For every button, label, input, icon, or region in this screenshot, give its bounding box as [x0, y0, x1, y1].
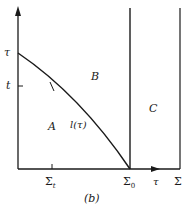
- y-axis-arrow-icon: [15, 6, 21, 16]
- sigma-0-base: Σ: [123, 175, 131, 188]
- curve-marker: [50, 82, 54, 91]
- x-label-sigma: Σ: [174, 176, 182, 187]
- region-b-label: B: [91, 71, 99, 82]
- sigma-t-base: Σ: [45, 175, 53, 188]
- curve-label: l(τ): [70, 119, 87, 130]
- region-a-label: A: [48, 121, 56, 132]
- y-label-tau: τ: [4, 47, 10, 58]
- curve-l-tau: [18, 53, 130, 169]
- y-label-t: t: [6, 80, 10, 91]
- x-axis-label-tau: τ: [153, 176, 159, 187]
- figure-caption: (b): [84, 193, 100, 204]
- sigma-t-sub: t: [53, 182, 56, 190]
- x-label-sigma-0: Σ0: [123, 176, 135, 192]
- sigma-0-sub: 0: [131, 182, 135, 190]
- region-c-label: C: [149, 103, 157, 114]
- x-axis-arrow-icon: [151, 166, 160, 172]
- x-label-sigma-t: Σt: [45, 176, 56, 192]
